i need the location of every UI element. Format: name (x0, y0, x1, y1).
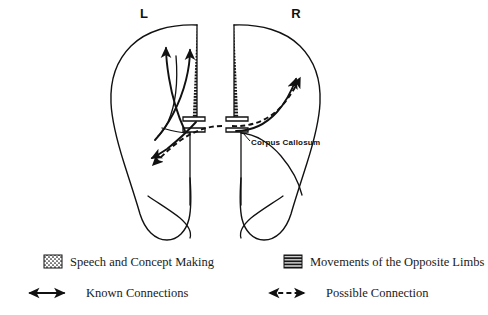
label-corpus-callosum: Corpus Callosum (251, 138, 320, 147)
corpus-callosum-right-upper (226, 117, 248, 121)
hatched-swatch-icon (284, 255, 302, 268)
figure-canvas: L R Corpus Callosum Speech and Concept M… (0, 0, 488, 315)
brain-diagram: L R Corpus Callosum Speech and Concept M… (0, 0, 488, 315)
legend-label-known: Known Connections (86, 286, 189, 300)
legend: Speech and Concept Making Movements of t… (30, 255, 484, 300)
legend-item-possible: Possible Connection (270, 286, 429, 300)
label-right-hemisphere: R (291, 6, 301, 21)
legend-item-speech: Speech and Concept Making (44, 255, 215, 269)
dotted-swatch-icon (44, 255, 62, 268)
legend-item-known: Known Connections (30, 286, 189, 300)
label-left-hemisphere: L (140, 6, 148, 21)
legend-label-possible: Possible Connection (326, 286, 429, 300)
legend-label-movements: Movements of the Opposite Limbs (310, 255, 484, 269)
legend-item-movements: Movements of the Opposite Limbs (284, 255, 484, 269)
corpus-callosum-left-upper (183, 117, 205, 121)
legend-label-speech: Speech and Concept Making (70, 255, 215, 269)
